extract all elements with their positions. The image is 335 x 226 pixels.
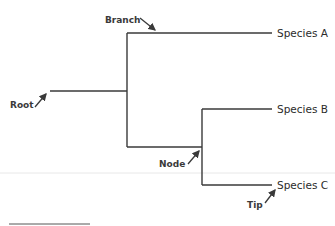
node-label: Node: [159, 159, 185, 169]
tip-label: Tip: [247, 200, 263, 210]
root-label: Root: [10, 100, 34, 110]
species-c-label: Species C: [277, 179, 328, 191]
branch-arrow-icon: [140, 18, 155, 30]
node-arrow-icon: [188, 151, 199, 164]
species-b-label: Species B: [277, 103, 328, 115]
branch-label: Branch: [105, 15, 141, 25]
species-a-label: Species A: [277, 27, 329, 39]
root-arrow-icon: [35, 94, 46, 107]
phylogenetic-tree-diagram: Species A Species B Species C Root Branc…: [0, 0, 335, 226]
tip-arrow-icon: [265, 190, 275, 203]
